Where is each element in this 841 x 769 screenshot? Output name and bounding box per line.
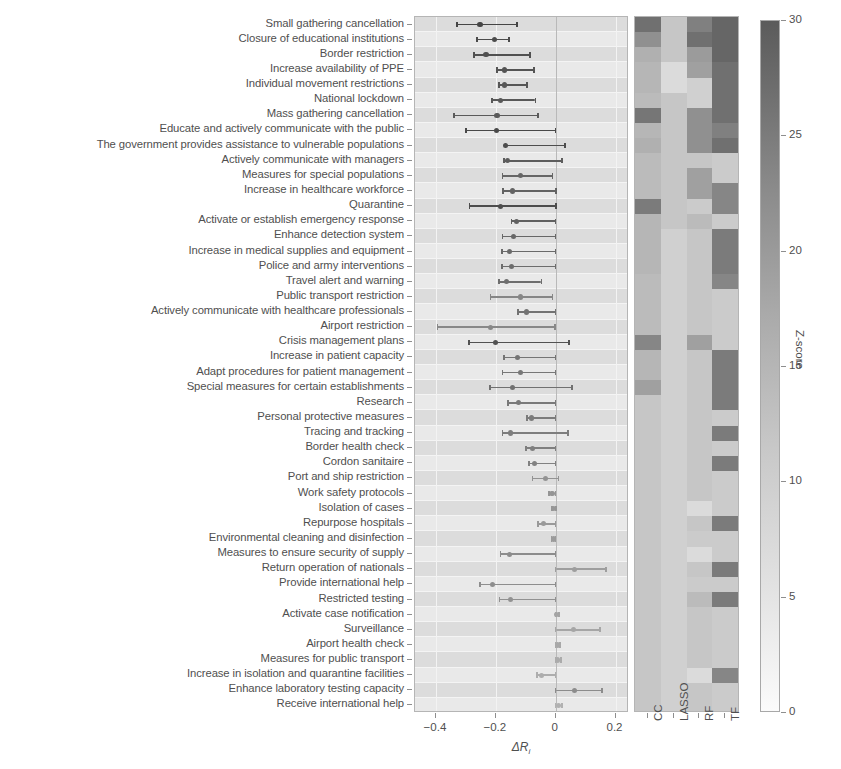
heatmap-cell — [661, 32, 687, 48]
y-axis-label: Measures for special populations — [242, 169, 404, 180]
heatmap-cell — [661, 199, 687, 215]
y-axis-label: Airport restriction — [321, 320, 404, 331]
heatmap-cell — [687, 516, 713, 532]
heatmap-cell — [661, 592, 687, 608]
heatmap-cell — [635, 214, 661, 230]
heatmap-cell — [687, 350, 713, 366]
estimate-marker — [555, 642, 560, 647]
heatmap-cell — [661, 304, 687, 320]
heatmap-cell — [712, 199, 738, 215]
row-stripe — [415, 531, 627, 546]
confidence-interval-bar — [466, 130, 556, 132]
estimate-marker — [551, 536, 556, 541]
colorbar-tick-label: 25 — [789, 129, 802, 141]
y-axis-tick — [407, 568, 412, 569]
heatmap-cell — [712, 607, 738, 623]
y-axis-tick — [407, 659, 412, 660]
heatmap-cell — [661, 123, 687, 139]
y-axis-label: Quarantine — [349, 199, 404, 210]
heatmap-cell — [661, 547, 687, 563]
y-axis-label: Adapt procedures for patient management — [196, 366, 404, 377]
y-axis-label: Special measures for certain establishme… — [187, 381, 404, 392]
y-axis-label: Research — [356, 396, 404, 407]
estimate-marker — [572, 567, 577, 572]
ci-cap — [529, 52, 531, 57]
y-axis-tick — [407, 190, 412, 191]
y-axis-tick — [407, 689, 412, 690]
estimate-marker — [514, 219, 519, 224]
y-axis-tick — [407, 99, 412, 100]
y-axis-tick — [407, 235, 412, 236]
colorbar-tick-label: 10 — [789, 475, 802, 487]
heatmap-cell — [687, 456, 713, 472]
heatmap-cell — [712, 214, 738, 230]
heatmap-cell — [687, 199, 713, 215]
horizontal-gridline — [415, 697, 627, 698]
heatmap-cell — [712, 456, 738, 472]
confidence-interval-bar — [469, 342, 569, 344]
y-axis-label: Mass gathering cancellation — [267, 108, 404, 119]
ci-cap — [567, 430, 569, 435]
heatmap-cell — [687, 62, 713, 78]
y-axis-tick — [407, 538, 412, 539]
heatmap-cell — [635, 456, 661, 472]
horizontal-gridline — [415, 334, 627, 335]
y-axis-tick — [407, 281, 412, 282]
ci-cap — [502, 234, 504, 239]
ci-cap — [536, 672, 538, 677]
ci-cap — [555, 355, 557, 360]
heatmap-cell — [635, 123, 661, 139]
x-axis-tick-label: 0 — [535, 721, 575, 733]
y-axis-label: Enhance laboratory testing capacity — [229, 683, 404, 694]
y-axis-tick — [407, 311, 412, 312]
heatmap-cell — [635, 380, 661, 396]
heatmap-cell — [712, 350, 738, 366]
ci-cap — [568, 340, 570, 345]
heatmap-cell — [635, 153, 661, 169]
ci-cap — [526, 415, 528, 420]
ci-cap — [555, 597, 557, 602]
ci-cap — [456, 22, 458, 27]
ci-cap — [526, 82, 528, 87]
x-axis-tick-label: −0.4 — [415, 721, 455, 733]
horizontal-gridline — [415, 485, 627, 486]
y-axis-tick — [407, 205, 412, 206]
heatmap-cell — [687, 244, 713, 260]
heatmap-cell — [687, 486, 713, 502]
heatmap-cell — [635, 78, 661, 94]
y-axis-label: Travel alert and warning — [286, 275, 404, 286]
y-axis-tick — [407, 54, 412, 55]
heatmap-cell — [687, 637, 713, 653]
heatmap-cell — [712, 531, 738, 547]
y-axis-tick — [407, 160, 412, 161]
y-axis-label: The government provides assistance to vu… — [97, 139, 404, 150]
ci-cap — [599, 627, 601, 632]
heatmap-cell — [712, 365, 738, 381]
heatmap-cell — [661, 259, 687, 275]
estimate-marker — [498, 98, 503, 103]
ci-cap — [555, 521, 557, 526]
ci-cap — [469, 203, 471, 208]
estimate-marker — [549, 491, 554, 496]
heatmap-cell — [687, 17, 713, 33]
heatmap-cell — [635, 410, 661, 426]
heatmap-cell — [712, 380, 738, 396]
heatmap-cell — [712, 320, 738, 336]
colorbar-tick-label: 0 — [789, 706, 795, 718]
heatmap-cell — [661, 501, 687, 517]
heatmap-cell — [687, 410, 713, 426]
heatmap-cell — [712, 229, 738, 245]
heatmap-cell — [687, 304, 713, 320]
heatmap-cell — [635, 516, 661, 532]
heatmap-cell — [712, 652, 738, 668]
ci-cap — [468, 340, 470, 345]
ci-cap — [507, 400, 509, 405]
ci-cap — [555, 627, 557, 632]
heatmap-cell — [635, 668, 661, 684]
x-axis-tick — [435, 713, 436, 718]
y-axis-label: Crisis management plans — [279, 335, 404, 346]
ci-cap — [437, 324, 439, 329]
horizontal-gridline — [415, 667, 627, 668]
heatmap-cell — [687, 153, 713, 169]
heatmap-cell — [661, 214, 687, 230]
